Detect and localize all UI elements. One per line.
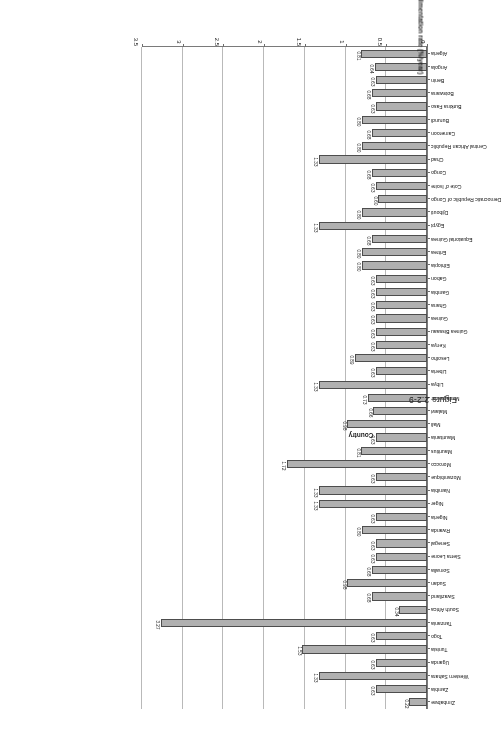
bar <box>347 420 427 428</box>
category-label: Morocco <box>431 462 451 467</box>
bar-value-label: 3.27 <box>156 620 161 629</box>
category-label: Guinea Bissaau <box>431 329 468 334</box>
bar-value-label: 1.33 <box>314 157 319 166</box>
category-label: Botswana <box>431 91 454 96</box>
bar <box>319 672 427 680</box>
bar-value-label: 0.80 <box>357 210 362 219</box>
value-tick-label: 1 <box>339 40 345 43</box>
category-label: Ethiopia <box>431 263 450 268</box>
bar <box>319 222 427 230</box>
bar-row: 0.63 <box>143 301 427 309</box>
bar <box>362 261 427 269</box>
bar-row: 1.33 <box>143 672 427 680</box>
category-label: Sudan <box>431 581 446 586</box>
bar-value-label: 1.33 <box>314 488 319 497</box>
bar-value-label: 0.81 <box>356 448 361 457</box>
bar <box>355 354 427 362</box>
category-label: Rwanda <box>431 528 450 533</box>
value-tick <box>183 44 184 47</box>
category-label: Liberia <box>431 369 447 374</box>
bar-value-label: 0.34 <box>394 607 399 616</box>
bar <box>372 592 427 600</box>
bar <box>376 553 427 561</box>
category-label: Mauritania <box>431 435 455 440</box>
bar <box>376 341 427 349</box>
bar <box>362 142 427 150</box>
bar-value-label: 0.63 <box>371 289 376 298</box>
bar <box>361 447 427 455</box>
bar-row: 0.80 <box>143 261 427 269</box>
category-label: Chad <box>431 157 443 162</box>
bar-value-label: 0.98 <box>342 581 347 590</box>
bar-row: 0.64 <box>143 63 427 71</box>
bar-row: 1.33 <box>143 486 427 494</box>
bar-value-label: 0.68 <box>367 594 372 603</box>
category-label: Djibouti <box>431 210 448 215</box>
value-axis: 00.511.522.533.5 <box>143 21 428 47</box>
value-tick-label: 3.5 <box>133 38 139 46</box>
bar-value-label: 0.22 <box>404 700 409 709</box>
bar <box>376 659 427 667</box>
bar-value-label: 0.68 <box>367 131 372 140</box>
bar-row: 0.63 <box>143 632 427 640</box>
bar <box>319 381 427 389</box>
bar <box>319 155 427 163</box>
bar-row: 0.68 <box>143 235 427 243</box>
category-label: Congo <box>431 170 446 175</box>
category-label: Zimbabwe <box>431 700 455 705</box>
bar <box>373 407 427 415</box>
category-label: Benin <box>431 78 444 83</box>
category-label: Kenya <box>431 342 446 347</box>
category-label: Malawi <box>431 409 447 414</box>
category-label: Democratic Republic of Congo <box>431 197 501 202</box>
axis-title-value: Sedimentation rate (%/year) <box>418 0 425 122</box>
bar <box>161 619 427 627</box>
bar-value-label: 1.53 <box>297 647 302 656</box>
category-label: Namibia <box>431 488 450 493</box>
value-tick <box>427 44 428 47</box>
bar-value-label: 0.68 <box>367 170 372 179</box>
category-label: Egypt <box>431 223 444 228</box>
bar-row: 0.68 <box>143 592 427 600</box>
category-label: Gambia <box>431 289 449 294</box>
value-tick-label: 3 <box>176 40 182 43</box>
bar <box>372 235 427 243</box>
bar-row: 0.80 <box>143 526 427 534</box>
bar-value-label: 0.63 <box>371 104 376 113</box>
bar <box>347 579 427 587</box>
bar-row: 0.63 <box>143 314 427 322</box>
bar <box>362 208 427 216</box>
bar-row: 0.63 <box>143 182 427 190</box>
category-label: Gabon <box>431 276 447 281</box>
bar-value-label: 0.63 <box>371 78 376 87</box>
value-tick <box>386 44 387 47</box>
bar-row: 0.22 <box>143 698 427 706</box>
category-label: Uganda <box>431 660 449 665</box>
category-label: Angola <box>431 64 447 69</box>
category-label: Somalia <box>431 567 450 572</box>
gridline-3.5 <box>141 47 142 709</box>
bar <box>319 486 427 494</box>
bar-row: 1.33 <box>143 381 427 389</box>
bar-row: 0.80 <box>143 142 427 150</box>
bar-row: 0.80 <box>143 208 427 216</box>
bar-value-label: 0.68 <box>367 237 372 246</box>
bar <box>319 500 427 508</box>
axis-title-category: Country <box>301 432 421 439</box>
bar-row: 0.63 <box>143 513 427 521</box>
category-label: Mauritius <box>431 448 452 453</box>
bar <box>376 473 427 481</box>
category-label: Burkina Faso <box>431 104 462 109</box>
bar-value-label: 0.63 <box>371 554 376 563</box>
category-label: Central African Republic <box>431 144 487 149</box>
value-tick <box>264 44 265 47</box>
bar-row: 1.72 <box>143 460 427 468</box>
category-label: Cameroon <box>431 131 455 136</box>
category-label: Togo <box>431 634 442 639</box>
category-label: South Africa <box>431 607 459 612</box>
bar <box>376 314 427 322</box>
bar-value-label: 0.63 <box>371 329 376 338</box>
value-tick-label: 2 <box>257 40 263 43</box>
